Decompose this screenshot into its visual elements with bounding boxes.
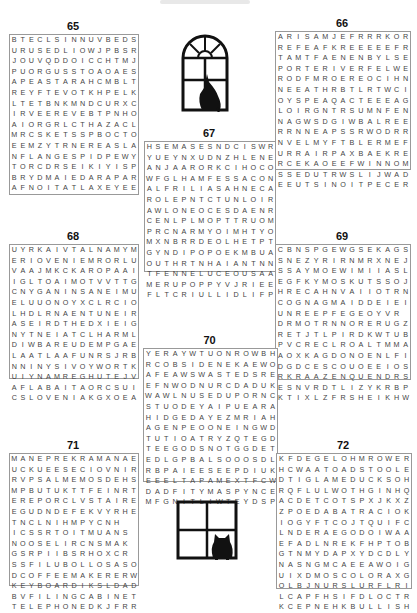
grid-letter: I	[347, 180, 356, 191]
grid-letter: Q	[44, 56, 53, 67]
grid-letter: Y	[44, 141, 53, 152]
grid-letter: Y	[19, 245, 28, 256]
grid-letter: S	[340, 581, 349, 592]
grid-letter: E	[78, 602, 87, 613]
grid-letter: E	[162, 444, 171, 455]
grid-letter: O	[129, 130, 138, 141]
grid-letter: I	[179, 487, 188, 498]
grid-letter: S	[154, 142, 163, 153]
grid-letter: P	[197, 280, 206, 291]
grid-letter: W	[384, 454, 393, 465]
grid-letter: P	[36, 496, 45, 507]
grid-letter: C	[383, 180, 392, 191]
grid-letter: U	[27, 46, 36, 57]
grid-letter: U	[53, 560, 62, 571]
grid-letter: P	[214, 216, 223, 227]
grid-letter: S	[215, 455, 224, 466]
grid-letter: M	[78, 475, 87, 486]
grid-letter: A	[129, 393, 138, 404]
grid-letter: U	[27, 298, 36, 309]
grid-letter: O	[392, 277, 401, 288]
grid-letter: C	[259, 487, 268, 498]
grid-letter: K	[340, 602, 349, 613]
grid-letter: U	[223, 195, 232, 206]
grid-letter: A	[268, 402, 277, 413]
grid-letter: C	[162, 227, 171, 238]
grid-letter: O	[268, 360, 277, 371]
grid-letter: E	[36, 109, 45, 120]
grid-letter: E	[78, 319, 87, 330]
grid-letter: H	[144, 413, 153, 424]
grid-letter: S	[121, 162, 130, 173]
grid-letter: O	[393, 539, 402, 550]
grid-letter: X	[188, 153, 197, 164]
grid-letter: I	[121, 465, 130, 476]
grid-letter: E	[401, 149, 410, 160]
grid-letter: M	[331, 475, 340, 486]
grid-letter: N	[313, 581, 322, 592]
grid-letter: P	[104, 266, 113, 277]
grid-letter: A	[295, 592, 304, 603]
grid-letter: L	[384, 581, 393, 592]
grid-letter: C	[286, 496, 295, 507]
grid-letter: N	[347, 256, 356, 267]
grid-letter: K	[87, 507, 96, 518]
grid-letter: O	[356, 362, 365, 373]
grid-letter: A	[78, 393, 87, 404]
grid-letter: I	[258, 195, 267, 206]
grid-letter: A	[313, 465, 322, 476]
grid-letter: I	[19, 372, 28, 383]
grid-letter: E	[188, 206, 197, 217]
grid-letter: E	[53, 130, 62, 141]
grid-letter: A	[188, 434, 197, 445]
grid-letter: F	[19, 183, 28, 194]
grid-letter: M	[145, 280, 154, 291]
grid-letter: H	[104, 56, 113, 67]
grid-letter: D	[144, 487, 153, 498]
grid-letter: W	[95, 362, 104, 373]
grid-letter: A	[266, 184, 275, 195]
grid-letter: G	[78, 372, 87, 383]
grid-letter: T	[129, 592, 138, 603]
grid-letter: R	[121, 496, 130, 507]
grid-letter: E	[214, 174, 223, 185]
grid-letter: N	[10, 152, 19, 163]
grid-letter: R	[259, 370, 268, 381]
grid-letter: N	[303, 127, 312, 138]
grid-letter: A	[78, 266, 87, 277]
grid-letter: Q	[286, 486, 295, 497]
grid-letter: E	[240, 237, 249, 248]
grid-letter: L	[383, 64, 392, 75]
grid-letter: C	[206, 206, 215, 217]
grid-letter: E	[365, 138, 374, 149]
grid-letter: D	[250, 444, 259, 455]
grid-letter: T	[10, 518, 19, 529]
grid-letter: D	[259, 455, 268, 466]
grid-letter: S	[401, 372, 410, 383]
grid-letter: D	[295, 454, 304, 465]
grid-letter: X	[294, 351, 303, 362]
grid-letter: O	[87, 475, 96, 486]
grid-letter: P	[233, 391, 242, 402]
grid-letter: E	[112, 35, 121, 46]
grid-letter: R	[104, 298, 113, 309]
grid-letter: E	[197, 142, 206, 153]
grid-letter: E	[206, 237, 215, 248]
grid-letter: L	[27, 152, 36, 163]
grid-letter: S	[53, 35, 62, 46]
grid-letter: E	[53, 393, 62, 404]
grid-letter: F	[153, 497, 162, 508]
grid-letter: O	[285, 298, 294, 309]
grid-letter: R	[393, 581, 402, 592]
grid-letter: R	[356, 32, 365, 43]
grid-letter: L	[348, 581, 357, 592]
grid-letter: S	[95, 475, 104, 486]
grid-letter: O	[321, 159, 330, 170]
grid-letter: J	[162, 163, 171, 174]
grid-letter: T	[121, 362, 130, 373]
grid-letter: R	[27, 245, 36, 256]
grid-letter: Y	[27, 173, 36, 184]
grid-letter: R	[206, 434, 215, 445]
grid-letter: K	[61, 486, 70, 497]
grid-letter: T	[224, 444, 233, 455]
